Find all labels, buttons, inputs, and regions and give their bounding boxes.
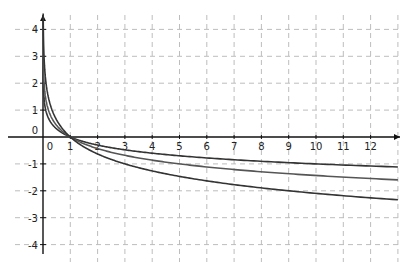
y-tick-label: -1 — [28, 159, 38, 170]
curves — [43, 13, 398, 199]
x-tick-label: 5 — [176, 141, 182, 152]
y-tick-label: 0 — [32, 125, 38, 136]
x-tick-label: 6 — [204, 141, 210, 152]
x-tick-label: 11 — [337, 141, 350, 152]
x-tick-label: 0 — [47, 141, 53, 152]
log-chart: 0123456789101112 43210-1-2-3-4 — [0, 0, 412, 266]
y-tick-label: -4 — [28, 240, 38, 251]
x-tick-label: 8 — [258, 141, 264, 152]
y-tick-label: -2 — [28, 186, 38, 197]
y-tick-label: 4 — [32, 24, 38, 35]
x-tick-label: 2 — [94, 141, 100, 152]
x-axis-arrow-icon — [394, 134, 400, 140]
x-tick-label: 1 — [67, 141, 73, 152]
curve-series-2 — [43, 22, 398, 180]
x-tick-label: 9 — [286, 141, 292, 152]
x-tick-labels: 0123456789101112 — [47, 141, 377, 152]
x-tick-label: 12 — [364, 141, 377, 152]
x-tick-label: 7 — [231, 141, 237, 152]
y-tick-label: 2 — [32, 78, 38, 89]
x-tick-label: 4 — [149, 141, 155, 152]
y-tick-label: -3 — [28, 213, 38, 224]
curve-series-3 — [43, 13, 398, 199]
x-tick-label: 10 — [310, 141, 323, 152]
y-tick-label: 3 — [32, 51, 38, 62]
y-tick-label: 1 — [32, 105, 38, 116]
